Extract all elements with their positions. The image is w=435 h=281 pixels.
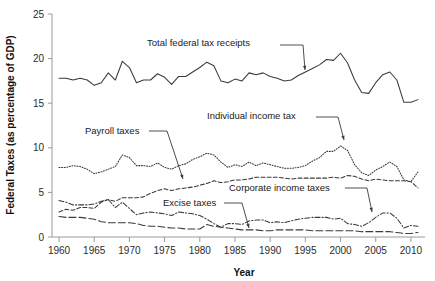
y-tick-label: 15 — [33, 98, 45, 109]
x-tick-label: 1980 — [189, 245, 212, 256]
y-tick-label: 10 — [33, 142, 45, 153]
x-tick-label: 1965 — [83, 245, 106, 256]
chart-container: 0510152025 19601965197019751980198519901… — [0, 0, 435, 281]
x-tick-label: 2000 — [329, 245, 352, 256]
federal-taxes-line-chart: 0510152025 19601965197019751980198519901… — [0, 0, 435, 281]
x-tick-label: 1975 — [153, 245, 176, 256]
y-tick-label: 0 — [38, 232, 44, 243]
x-tick-label: 1970 — [118, 245, 141, 256]
x-axis-title: Year — [233, 267, 254, 278]
x-tick-label: 2005 — [365, 245, 388, 256]
x-tick-label: 2010 — [400, 245, 423, 256]
x-tick-label: 1985 — [224, 245, 247, 256]
y-tick-label: 5 — [38, 187, 44, 198]
y-tick-label: 20 — [33, 53, 45, 64]
annotation-label-individual-income-tax: Individual income tax — [207, 110, 296, 121]
x-tick-label: 1995 — [294, 245, 317, 256]
x-tick-label: 1960 — [48, 245, 71, 256]
annotation-label-payroll-taxes: Payroll taxes — [85, 125, 140, 136]
y-tick-label: 25 — [33, 9, 45, 20]
annotation-label-excise-taxes: Excise taxes — [163, 197, 217, 208]
annotation-label-corporate-income-taxes: Corporate income taxes — [229, 182, 330, 193]
y-axis-title: Federal Taxes (as percentage of GDP) — [5, 35, 16, 214]
annotation-label-total-federal-tax-receipts: Total federal tax receipts — [147, 37, 250, 48]
x-tick-label: 1990 — [259, 245, 282, 256]
